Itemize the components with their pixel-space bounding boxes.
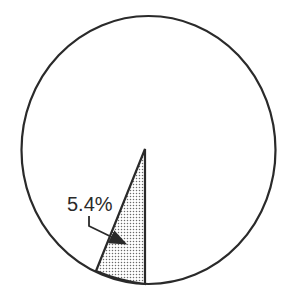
pie-outline [22,16,276,284]
pie-chart: 5.4% [0,0,299,296]
slice-percentage-label: 5.4% [67,193,113,215]
